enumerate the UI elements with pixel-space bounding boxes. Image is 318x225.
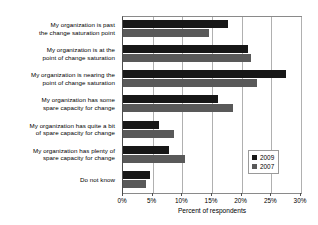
category-label: My organization has plenty ofspare capac… xyxy=(1,147,115,162)
bar-group xyxy=(123,118,301,143)
category-label: My organization is nearing thepoint of c… xyxy=(1,71,115,86)
legend-swatch-icon-2007 xyxy=(252,164,257,169)
bar-2009[interactable] xyxy=(123,70,286,78)
legend: 2009 2007 xyxy=(248,150,279,174)
x-tick-label: 20% xyxy=(234,196,247,205)
x-tick-label: 0% xyxy=(117,196,126,205)
legend-label-2007: 2007 xyxy=(260,162,274,171)
category-label-line: My organization has plenty of xyxy=(1,147,115,155)
legend-label-2009: 2009 xyxy=(260,153,274,162)
category-label-line: My organization is past xyxy=(1,21,115,29)
category-label-line: point of change saturation xyxy=(1,54,115,62)
bar-2009[interactable] xyxy=(123,171,150,179)
bar-2007[interactable] xyxy=(123,104,233,112)
bar-2009[interactable] xyxy=(123,20,228,28)
bar-2009[interactable] xyxy=(123,121,159,129)
category-label-line: My organization has some xyxy=(1,96,115,104)
category-label: My organization is at thepoint of change… xyxy=(1,46,115,61)
bar-group xyxy=(123,67,301,92)
bar-2007[interactable] xyxy=(123,130,174,138)
category-label: Do not know xyxy=(1,176,115,184)
legend-swatch-icon-2009 xyxy=(252,155,257,160)
gridline xyxy=(301,17,302,193)
category-label-line: point of change saturation xyxy=(1,79,115,87)
category-label-line: My organization is at the xyxy=(1,46,115,54)
bar-2009[interactable] xyxy=(123,146,169,154)
category-label: My organization is pastthe change satura… xyxy=(1,21,115,36)
x-tick-label: 10% xyxy=(175,196,188,205)
x-axis-title: Percent of respondents xyxy=(122,207,302,214)
category-label-line: of spare capacity for change xyxy=(1,129,115,137)
category-label-line: spare capacity for change xyxy=(1,104,115,112)
x-tick-label: 15% xyxy=(205,196,218,205)
bar-group xyxy=(123,42,301,67)
category-label: My organization has quite a bitof spare … xyxy=(1,122,115,137)
category-label-line: the change saturation point xyxy=(1,29,115,37)
bar-2009[interactable] xyxy=(123,95,218,103)
bar-group xyxy=(123,92,301,117)
bar-2007[interactable] xyxy=(123,79,257,87)
legend-item-2009[interactable]: 2009 xyxy=(252,153,274,162)
category-label-line: My organization is nearing the xyxy=(1,71,115,79)
bar-group xyxy=(123,17,301,42)
bar-chart: My organization is pastthe change satura… xyxy=(0,0,318,225)
legend-item-2007[interactable]: 2007 xyxy=(252,162,274,171)
category-label-line: Do not know xyxy=(1,176,115,184)
x-tick-label: 5% xyxy=(147,196,156,205)
bar-2007[interactable] xyxy=(123,180,146,188)
category-label-line: spare capacity for change xyxy=(1,154,115,162)
x-tick-label: 30% xyxy=(294,196,307,205)
bar-2007[interactable] xyxy=(123,155,185,163)
category-label: My organization has somespare capacity f… xyxy=(1,96,115,111)
x-tick-label: 25% xyxy=(264,196,277,205)
bar-2007[interactable] xyxy=(123,29,209,37)
bar-2007[interactable] xyxy=(123,54,251,62)
bar-2009[interactable] xyxy=(123,45,248,53)
category-axis-labels: My organization is pastthe change satura… xyxy=(0,16,118,192)
category-label-line: My organization has quite a bit xyxy=(1,122,115,130)
